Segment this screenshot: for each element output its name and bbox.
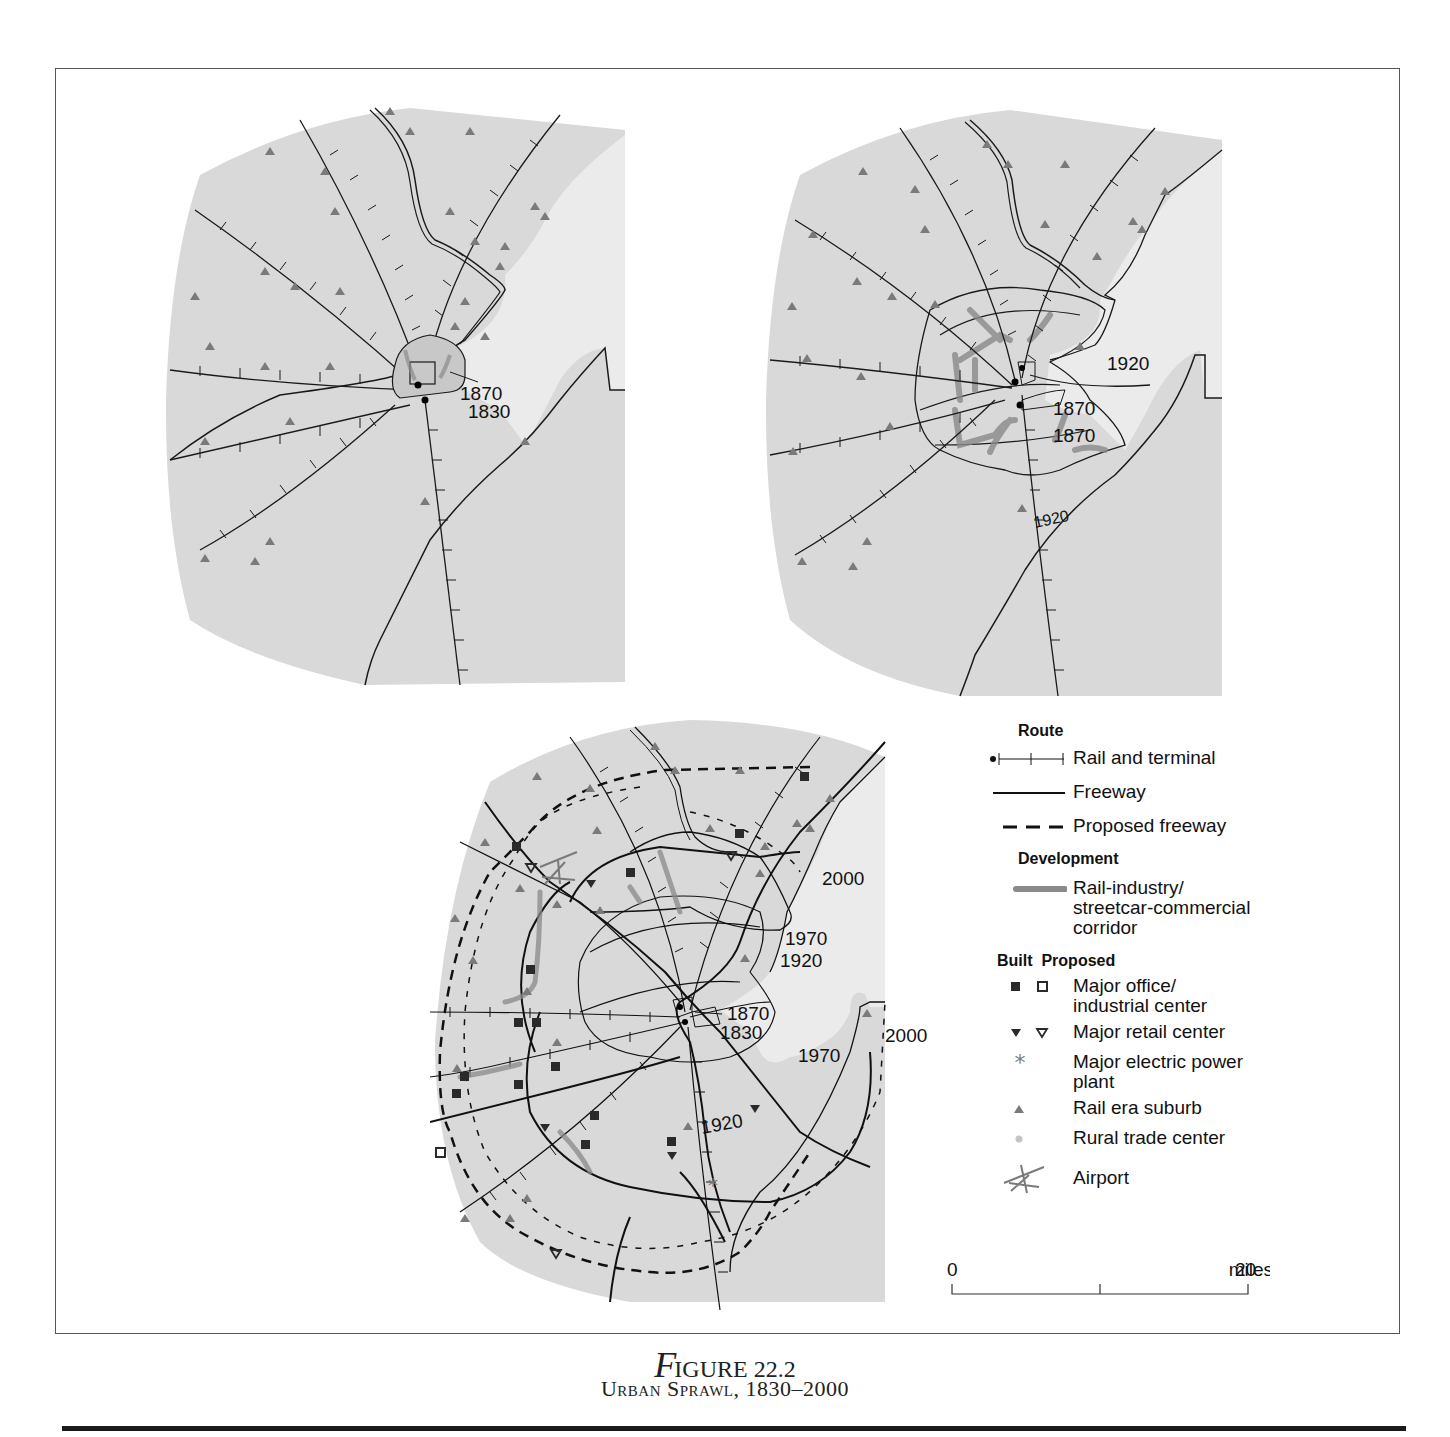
airport-icon	[985, 1162, 1073, 1194]
year-label: 2000	[885, 1025, 927, 1046]
legend-item-office: Major office/industrial center	[985, 976, 1305, 1016]
map-2-svg: 1920 1870 1870 1920	[760, 100, 1230, 700]
legend-header-development: Development	[1018, 850, 1305, 868]
legend-item-proposed-freeway: Proposed freeway	[985, 816, 1305, 838]
map-1-svg: 1870 1830	[160, 100, 630, 690]
figure-title: Urban Sprawl, 1830–2000	[0, 1376, 1450, 1402]
legend-item-rural: Rural trade center	[985, 1128, 1305, 1150]
power-plant-icon: *	[708, 1173, 718, 1197]
legend-item-power-plant: * Major electric powerplant	[985, 1052, 1305, 1092]
rail-terminal	[415, 382, 422, 389]
power-plant-icon: *	[985, 1052, 1073, 1074]
map-2000: 2000 1970 1920 1870 1830 2000 1970 1920 …	[430, 712, 940, 1312]
rail-terminal	[422, 397, 429, 404]
retail-center-icon	[985, 1022, 1073, 1044]
legend-header-built-proposed: Built Proposed	[997, 952, 1305, 970]
proposed-office-center	[436, 1148, 445, 1157]
freeway-icon	[985, 782, 1073, 804]
office-center-icon	[985, 976, 1073, 998]
year-label: 1830	[468, 401, 510, 422]
map-1920: 1920 1870 1870 1920	[760, 100, 1230, 700]
legend-item-suburb: Rail era suburb	[985, 1098, 1305, 1120]
proposed-freeway-icon	[985, 816, 1073, 838]
land-area	[166, 108, 625, 685]
year-label: 1920	[1107, 353, 1149, 374]
year-label: 1970	[785, 928, 827, 949]
legend-item-retail: Major retail center	[985, 1022, 1305, 1044]
page-rule	[62, 1426, 1406, 1431]
suburb-triangle-icon	[985, 1098, 1073, 1120]
scale-start: 0	[947, 1259, 958, 1280]
rail-terminal-icon	[985, 748, 1073, 770]
legend-item-airport: Airport	[985, 1162, 1305, 1194]
year-label: 1870	[727, 1003, 769, 1024]
scale-bar: 0 20 miles	[940, 1258, 1270, 1308]
rail-terminal	[677, 1004, 683, 1010]
year-label: 1920	[780, 950, 822, 971]
legend-item-corridor: Rail-industry/ streetcar-commercial corr…	[985, 878, 1305, 938]
rail-terminal	[682, 1019, 688, 1025]
legend-item-rail: Rail and terminal	[985, 748, 1305, 770]
year-label: 1870	[1053, 425, 1095, 446]
year-label: 1830	[720, 1022, 762, 1043]
year-label: 2000	[822, 868, 864, 889]
year-label: 1970	[798, 1045, 840, 1066]
rail-terminal	[1012, 379, 1019, 386]
corridor-icon	[985, 878, 1073, 900]
legend-item-freeway: Freeway	[985, 782, 1305, 804]
rural-trade-center-icon	[985, 1128, 1073, 1150]
legend-header-route: Route	[1018, 722, 1305, 740]
scale-unit: miles	[1229, 1259, 1270, 1280]
map-1830-1870: 1870 1830	[160, 100, 630, 690]
map-legend: Route Rail and terminal Freeway Proposed…	[985, 722, 1305, 1194]
year-label: 1870	[1053, 398, 1095, 419]
map-3-svg: 2000 1970 1920 1870 1830 2000 1970 1920 …	[430, 712, 940, 1312]
